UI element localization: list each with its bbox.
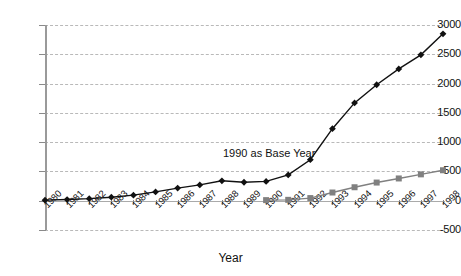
series-diamond-line <box>45 34 443 200</box>
series-diamond-marker <box>218 177 225 184</box>
series-diamond-marker <box>64 196 71 203</box>
series-square-marker <box>307 195 313 201</box>
base-year-annotation: 1990 as Base Year <box>223 147 315 159</box>
series-diamond-marker <box>241 179 248 186</box>
series-square-marker <box>285 197 291 203</box>
series-square-marker <box>396 175 402 181</box>
series-diamond-marker <box>152 189 159 196</box>
series-square-marker <box>418 171 424 177</box>
x-axis-title: Year <box>0 252 461 265</box>
series-square-marker <box>374 180 380 186</box>
series-diamond-marker <box>86 195 93 202</box>
series-square-marker <box>263 197 269 203</box>
plot-area: -500050010001500200025003000 19801981198… <box>0 0 461 276</box>
series-diamond-marker <box>196 182 203 189</box>
series-square-marker <box>329 190 335 196</box>
series-diamond-marker <box>130 192 137 199</box>
series-layer <box>0 0 461 276</box>
series-diamond-marker <box>42 197 49 204</box>
series-diamond-marker <box>263 178 270 185</box>
series-diamond-marker <box>174 185 181 192</box>
series-diamond-marker <box>108 194 115 201</box>
series-square-marker <box>440 167 446 173</box>
series-square-marker <box>352 184 358 190</box>
chart-container: -500050010001500200025003000 19801981198… <box>0 0 461 276</box>
